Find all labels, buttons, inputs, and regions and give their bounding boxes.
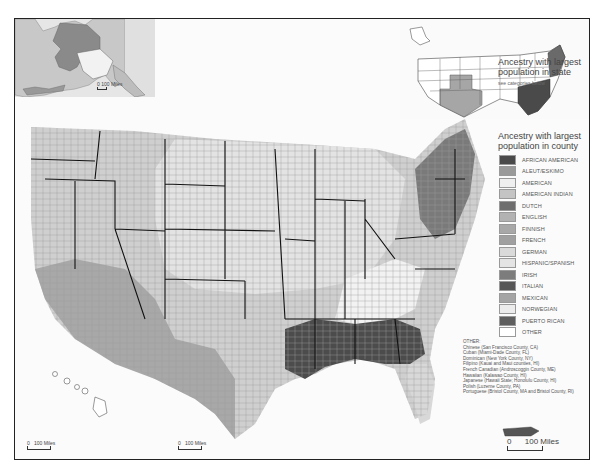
legend-item: ITALIAN — [499, 281, 578, 293]
legend-swatch — [499, 293, 516, 303]
legend-swatch — [499, 155, 516, 165]
state-legend-heading: Ancestry with largest population in stat… — [498, 57, 581, 77]
legend-item: HISPANIC/SPANISH — [499, 258, 578, 270]
legend-item: IRISH — [499, 269, 578, 281]
scale-label: 100 Miles — [525, 437, 559, 446]
scale-zero: 0 — [27, 440, 30, 446]
legend-item: AMERICAN INDIAN — [499, 189, 578, 201]
scale-label: 100 Miles — [34, 440, 55, 446]
conus-scale-bar: 0 100 Miles — [178, 440, 206, 450]
legend-label: AFRICAN AMERICAN — [522, 157, 578, 163]
legend-label: NORWEGIAN — [522, 306, 557, 312]
legend-swatch — [499, 166, 516, 176]
legend-label: OTHER — [522, 329, 542, 335]
scale-zero: 0 — [178, 440, 181, 446]
legend-swatch — [499, 258, 516, 268]
legend-item: PUERTO RICAN — [499, 315, 578, 327]
legend-label: GERMAN — [522, 249, 547, 255]
legend-label: AMERICAN — [522, 180, 552, 186]
legend-item: ALEUT/ESKIMO — [499, 166, 578, 178]
legend-label: DUTCH — [522, 203, 542, 209]
legend-item: AFRICAN AMERICAN — [499, 154, 578, 166]
legend-label: IRISH — [522, 272, 537, 278]
state-legend-title: Ancestry with largest population in stat… — [498, 57, 590, 88]
legend-item: FRENCH — [499, 235, 578, 247]
legend-swatch — [499, 189, 516, 199]
legend-label: FRENCH — [522, 237, 546, 243]
scale-label: 100 Miles — [185, 440, 206, 446]
legend-label: FINNISH — [522, 226, 545, 232]
legend-swatch — [499, 178, 516, 188]
legend-item: FINNISH — [499, 223, 578, 235]
legend-swatch — [499, 327, 516, 337]
other-line: Portuguese (Bristol County, MA and Brist… — [463, 389, 590, 395]
legend-item: ENGLISH — [499, 212, 578, 224]
county-legend: AFRICAN AMERICAN ALEUT/ESKIMO AMERICAN A… — [499, 154, 578, 338]
state-legend-subtitle: see categories below — [498, 78, 590, 88]
legend-label: AMERICAN INDIAN — [522, 191, 573, 197]
legend-swatch — [499, 281, 516, 291]
legend-swatch — [499, 304, 516, 314]
scale-zero: 0 — [507, 437, 511, 446]
legend-item: NORWEGIAN — [499, 304, 578, 316]
legend-item: OTHER — [499, 327, 578, 339]
legend-item: MEXICAN — [499, 292, 578, 304]
legend-swatch — [499, 212, 516, 222]
legend-label: HISPANIC/SPANISH — [522, 260, 574, 266]
legend-swatch — [499, 201, 516, 211]
legend-swatch — [499, 316, 516, 326]
legend-label: MEXICAN — [522, 295, 548, 301]
other-ancestry-notes: OTHER: Chinese (San Francisco County, CA… — [463, 339, 590, 395]
hawaii-scale-bar: 0 100 Miles — [27, 440, 55, 450]
legend-label: PUERTO RICAN — [522, 318, 565, 324]
legend-swatch — [499, 247, 516, 257]
county-legend-title: Ancestry with largest population in coun… — [498, 131, 590, 151]
legend-swatch — [499, 235, 516, 245]
legend-item: AMERICAN — [499, 177, 578, 189]
legend-label: ALEUT/ESKIMO — [522, 168, 564, 174]
legend-swatch — [499, 270, 516, 280]
legend-item: GERMAN — [499, 246, 578, 258]
puerto-rico — [503, 427, 539, 436]
puerto-rico-scale-bar: 0 100 Miles — [507, 437, 559, 451]
legend-swatch — [499, 224, 516, 234]
legend-item: DUTCH — [499, 200, 578, 212]
legend-label: ENGLISH — [522, 214, 547, 220]
hawaii — [53, 372, 108, 418]
legend-label: ITALIAN — [522, 283, 543, 289]
map-frame: 0 100 Miles — [14, 18, 590, 460]
